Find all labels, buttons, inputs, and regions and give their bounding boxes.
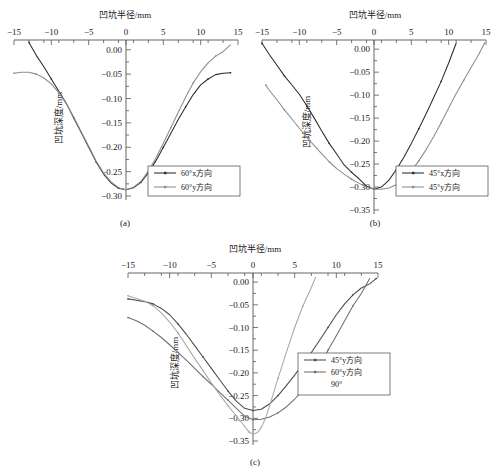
svg-text:−0.20: −0.20 xyxy=(228,368,249,378)
svg-text:5: 5 xyxy=(292,260,297,270)
svg-text:−0.15: −0.15 xyxy=(228,345,249,355)
svg-text:−0.35: −0.35 xyxy=(349,205,370,215)
svg-text:15: 15 xyxy=(482,27,492,37)
panel-b-plot: −15−10−50510150.00−0.05−0.10−0.15−0.20−0… xyxy=(250,0,500,232)
panel-a: 凹坑半径/mm (a) −15−10−50510150.00−0.05−0.10… xyxy=(0,0,250,232)
svg-text:0.00: 0.00 xyxy=(233,277,249,287)
panel-c-plot: −15−10−50510150.00−0.05−0.10−0.15−0.20−0… xyxy=(110,235,400,463)
svg-text:90°: 90° xyxy=(331,380,342,389)
svg-text:−10: −10 xyxy=(44,27,59,37)
svg-text:−0.20: −0.20 xyxy=(101,142,122,152)
svg-text:−5: −5 xyxy=(207,260,217,270)
svg-text:−10: −10 xyxy=(163,260,178,270)
svg-text:15: 15 xyxy=(234,27,244,37)
svg-text:−0.30: −0.30 xyxy=(101,191,122,201)
svg-text:60°y方向: 60°y方向 xyxy=(181,182,212,192)
panel-a-plot: −15−10−50510150.00−0.05−0.10−0.15−0.20−0… xyxy=(0,0,250,232)
svg-text:−15: −15 xyxy=(255,27,270,37)
svg-text:60°x方向: 60°x方向 xyxy=(181,168,212,178)
svg-text:凹坑深度/mm: 凹坑深度/mm xyxy=(301,96,312,149)
svg-text:−10: −10 xyxy=(292,27,307,37)
svg-text:−0.10: −0.10 xyxy=(101,94,122,104)
svg-text:−5: −5 xyxy=(332,27,342,37)
svg-text:−15: −15 xyxy=(7,27,22,37)
svg-text:45°x方向: 45°x方向 xyxy=(429,168,460,178)
svg-text:10: 10 xyxy=(444,27,454,37)
svg-text:−0.35: −0.35 xyxy=(228,436,249,446)
svg-text:5: 5 xyxy=(161,27,166,37)
svg-text:−0.25: −0.25 xyxy=(349,159,370,169)
svg-text:0: 0 xyxy=(124,27,129,37)
svg-text:−0.05: −0.05 xyxy=(101,69,122,79)
svg-text:−0.20: −0.20 xyxy=(349,136,370,146)
svg-text:60°y方向: 60°y方向 xyxy=(331,367,362,377)
svg-text:0: 0 xyxy=(372,27,377,37)
svg-text:−0.05: −0.05 xyxy=(228,300,249,310)
figure-crater-depth-profiles: 凹坑半径/mm (a) −15−10−50510150.00−0.05−0.10… xyxy=(0,0,500,469)
panel-c: 凹坑半径/mm (c) −15−10−50510150.00−0.05−0.10… xyxy=(110,235,400,469)
svg-text:45°y方向: 45°y方向 xyxy=(331,355,362,365)
svg-text:0.00: 0.00 xyxy=(354,44,370,54)
svg-text:5: 5 xyxy=(409,27,414,37)
svg-text:−15: −15 xyxy=(121,260,136,270)
svg-text:−0.10: −0.10 xyxy=(349,90,370,100)
svg-text:−0.15: −0.15 xyxy=(101,118,122,128)
svg-text:−0.05: −0.05 xyxy=(349,67,370,77)
svg-text:凹坑深度/mm: 凹坑深度/mm xyxy=(169,337,180,390)
svg-text:0: 0 xyxy=(251,260,256,270)
svg-text:10: 10 xyxy=(332,260,342,270)
svg-text:−0.15: −0.15 xyxy=(349,113,370,123)
svg-text:45°y方向: 45°y方向 xyxy=(429,182,460,192)
panel-b: 凹坑半径/mm (b) −15−10−50510150.00−0.05−0.10… xyxy=(250,0,500,232)
svg-text:−0.10: −0.10 xyxy=(228,323,249,333)
svg-text:−5: −5 xyxy=(84,27,94,37)
svg-text:15: 15 xyxy=(374,260,384,270)
svg-text:0.00: 0.00 xyxy=(106,45,122,55)
svg-text:凹坑深度/mm: 凹坑深度/mm xyxy=(53,92,64,145)
svg-text:10: 10 xyxy=(196,27,206,37)
